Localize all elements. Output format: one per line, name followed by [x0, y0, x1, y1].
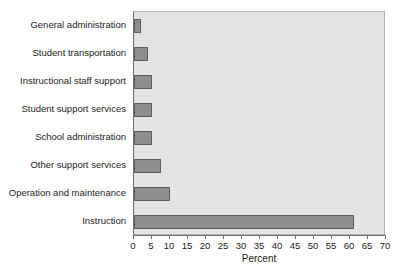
x-tick-label: 0: [130, 240, 135, 251]
category-label: Instructional staff support: [0, 76, 126, 86]
x-tick: [259, 235, 260, 239]
x-tick-label: 70: [380, 240, 391, 251]
x-tick-label: 35: [254, 240, 265, 251]
x-tick-label: 20: [200, 240, 211, 251]
x-tick: [241, 235, 242, 239]
x-tick: [295, 235, 296, 239]
x-tick-label: 30: [236, 240, 247, 251]
category-label: Student transportation: [0, 48, 126, 58]
category-label: General administration: [0, 20, 126, 30]
x-tick: [133, 235, 134, 239]
x-tick-label: 15: [182, 240, 193, 251]
x-tick-label: 10: [164, 240, 175, 251]
horizontal-bar-chart: General administrationStudent transporta…: [0, 0, 394, 265]
category-axis: General administrationStudent transporta…: [0, 11, 130, 235]
category-label: Other support services: [0, 160, 126, 170]
x-tick: [205, 235, 206, 239]
plot-area: [133, 11, 385, 235]
x-tick-label: 55: [326, 240, 337, 251]
x-tick: [331, 235, 332, 239]
category-label: Instruction: [0, 216, 126, 226]
x-tick-label: 40: [272, 240, 283, 251]
category-label: Operation and maintenance: [0, 188, 126, 198]
category-label: Student support services: [0, 104, 126, 114]
x-tick-label: 5: [148, 240, 153, 251]
bar: [134, 75, 152, 89]
x-tick: [277, 235, 278, 239]
bar: [134, 47, 148, 61]
bar: [134, 131, 152, 145]
bar: [134, 215, 354, 229]
x-tick: [349, 235, 350, 239]
x-tick: [367, 235, 368, 239]
x-tick-label: 65: [362, 240, 373, 251]
bar: [134, 19, 141, 33]
category-label: School administration: [0, 132, 126, 142]
x-tick: [223, 235, 224, 239]
x-tick: [313, 235, 314, 239]
x-tick: [169, 235, 170, 239]
x-tick: [151, 235, 152, 239]
x-tick: [187, 235, 188, 239]
bars-layer: [134, 12, 384, 234]
x-tick-label: 45: [290, 240, 301, 251]
bar: [134, 187, 170, 201]
x-tick-label: 25: [218, 240, 229, 251]
bar: [134, 103, 152, 117]
x-tick: [385, 235, 386, 239]
x-axis-title: Percent: [133, 253, 385, 264]
x-tick-label: 60: [344, 240, 355, 251]
x-tick-label: 50: [308, 240, 319, 251]
x-axis: Percent 0510152025303540455055606570: [133, 235, 385, 265]
bar: [134, 159, 161, 173]
